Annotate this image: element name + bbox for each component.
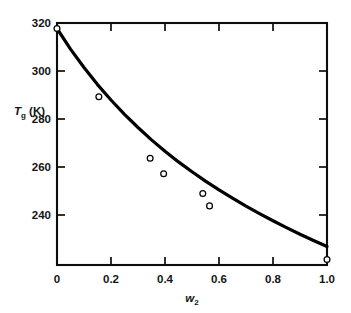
y-tick-label: 300 bbox=[32, 65, 51, 77]
x-tick-label: 0.8 bbox=[265, 273, 282, 285]
x-tick-label: 0 bbox=[54, 273, 60, 285]
data-point-marker bbox=[96, 94, 102, 100]
tg-vs-w2-plot: 320 300 280 260 240 0 0.2 0.4 0.6 0.8 1.… bbox=[0, 0, 351, 313]
y-tick-label: 240 bbox=[32, 209, 51, 221]
y-axis-title-unit: (K) bbox=[26, 105, 45, 117]
y-tick-label: 260 bbox=[32, 161, 51, 173]
data-point-marker bbox=[207, 203, 213, 209]
data-point-marker bbox=[54, 26, 60, 32]
x-axis-title-sub: 2 bbox=[194, 298, 199, 307]
x-tick-label: 0.2 bbox=[103, 273, 119, 285]
chart-figure: 320 300 280 260 240 0 0.2 0.4 0.6 0.8 1.… bbox=[0, 0, 351, 313]
data-point-marker bbox=[324, 257, 330, 263]
data-point-marker bbox=[147, 155, 153, 161]
x-tick-label: 0.4 bbox=[157, 273, 174, 285]
x-tick-label: 1.0 bbox=[319, 273, 335, 285]
y-tick-label: 320 bbox=[32, 17, 51, 29]
data-point-marker bbox=[161, 171, 167, 177]
data-point-marker bbox=[200, 191, 206, 197]
x-tick-label: 0.6 bbox=[211, 273, 227, 285]
